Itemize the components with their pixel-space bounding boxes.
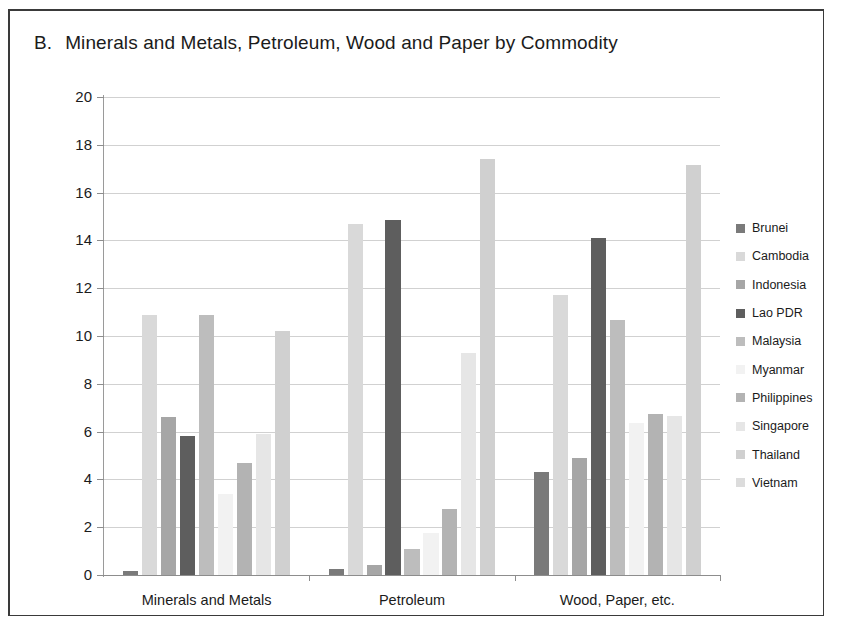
x-axis-tick <box>720 575 721 581</box>
y-axis-tick-label: 10 <box>52 327 92 344</box>
legend-item-vietnam[interactable]: Vietnam <box>736 469 836 497</box>
legend-swatch-icon <box>736 365 745 374</box>
bar-cambodia-2 <box>348 224 363 575</box>
chart-legend: BruneiCambodiaIndonesiaLao PDRMalaysiaMy… <box>736 214 836 497</box>
legend-item-thailand[interactable]: Thailand <box>736 440 836 468</box>
y-axis-tick <box>97 384 104 385</box>
gridline <box>104 336 720 337</box>
y-axis-tick-label: 18 <box>52 136 92 153</box>
y-axis-tick <box>97 432 104 433</box>
y-axis-tick <box>97 527 104 528</box>
y-axis-tick <box>97 479 104 480</box>
bar-philippines-3 <box>648 414 663 575</box>
bar-brunei-3 <box>534 472 549 575</box>
legend-swatch-icon <box>736 478 745 487</box>
figure-panel: B.Minerals and Metals, Petroleum, Wood a… <box>0 0 844 640</box>
y-axis-tick-label: 16 <box>52 184 92 201</box>
bar-lao-pdr-1 <box>180 436 195 575</box>
gridline <box>104 145 720 146</box>
gridline <box>104 384 720 385</box>
legend-swatch-icon <box>736 450 745 459</box>
gridline <box>104 240 720 241</box>
bar-thailand-1 <box>275 331 290 575</box>
legend-item-malaysia[interactable]: Malaysia <box>736 327 836 355</box>
bar-malaysia-3 <box>610 320 625 575</box>
gridline <box>104 288 720 289</box>
bar-brunei-2 <box>329 569 344 575</box>
bar-malaysia-2 <box>404 549 419 575</box>
bar-myanmar-1 <box>218 494 233 575</box>
bar-cambodia-1 <box>142 315 157 576</box>
legend-item-cambodia[interactable]: Cambodia <box>736 242 836 270</box>
bar-indonesia-2 <box>367 565 382 575</box>
title-text: Minerals and Metals, Petroleum, Wood and… <box>65 32 618 54</box>
legend-label: Philippines <box>752 391 812 405</box>
page-title: B.Minerals and Metals, Petroleum, Wood a… <box>34 32 618 54</box>
legend-swatch-icon <box>736 393 745 402</box>
legend-swatch-icon <box>736 224 745 233</box>
legend-label: Vietnam <box>752 476 798 490</box>
bar-thailand-3 <box>686 165 701 575</box>
bar-malaysia-1 <box>199 315 214 576</box>
y-axis-labels: 02468101214161820 <box>42 97 92 575</box>
bar-cambodia-3 <box>553 295 568 575</box>
legend-item-indonesia[interactable]: Indonesia <box>736 271 836 299</box>
legend-label: Malaysia <box>752 334 801 348</box>
gridline <box>104 97 720 98</box>
legend-label: Cambodia <box>752 249 809 263</box>
legend-label: Thailand <box>752 448 800 462</box>
x-axis-category-label: Petroleum <box>309 592 514 608</box>
bar-brunei-1 <box>123 571 138 575</box>
legend-item-singapore[interactable]: Singapore <box>736 412 836 440</box>
bar-myanmar-2 <box>423 533 438 575</box>
y-axis-tick-label: 6 <box>52 423 92 440</box>
x-axis-category-label: Wood, Paper, etc. <box>515 592 720 608</box>
y-axis-tick-label: 14 <box>52 231 92 248</box>
legend-item-brunei[interactable]: Brunei <box>736 214 836 242</box>
legend-item-myanmar[interactable]: Myanmar <box>736 355 836 383</box>
bar-philippines-2 <box>442 509 457 575</box>
y-axis-tick <box>97 145 104 146</box>
gridline <box>104 432 720 433</box>
y-axis-tick <box>97 336 104 337</box>
y-axis-tick-label: 0 <box>52 566 92 583</box>
y-axis-tick <box>97 288 104 289</box>
y-axis-tick-label: 2 <box>52 518 92 535</box>
x-axis-category-label: Minerals and Metals <box>104 592 309 608</box>
bar-indonesia-1 <box>161 417 176 575</box>
legend-label: Brunei <box>752 221 788 235</box>
legend-swatch-icon <box>736 422 745 431</box>
y-axis-tick-label: 8 <box>52 375 92 392</box>
y-axis-tick <box>97 575 104 576</box>
bar-thailand-2 <box>480 159 495 575</box>
bar-lao-pdr-2 <box>385 220 400 575</box>
panel-letter: B. <box>34 32 52 54</box>
legend-label: Myanmar <box>752 363 804 377</box>
y-axis-tick-label: 12 <box>52 279 92 296</box>
bar-lao-pdr-3 <box>591 238 606 575</box>
legend-label: Singapore <box>752 419 809 433</box>
gridline <box>104 575 720 576</box>
bar-indonesia-3 <box>572 458 587 575</box>
legend-swatch-icon <box>736 309 745 318</box>
bar-singapore-2 <box>461 353 476 575</box>
legend-item-lao-pdr[interactable]: Lao PDR <box>736 299 836 327</box>
bar-philippines-1 <box>237 463 252 575</box>
x-axis-tick <box>309 575 310 581</box>
bar-myanmar-3 <box>629 423 644 575</box>
bar-singapore-3 <box>667 416 682 575</box>
bar-singapore-1 <box>256 434 271 575</box>
gridline <box>104 527 720 528</box>
plot-area <box>104 97 720 575</box>
y-axis-tick <box>97 97 104 98</box>
legend-swatch-icon <box>736 280 745 289</box>
legend-item-philippines[interactable]: Philippines <box>736 384 836 412</box>
y-axis-tick-label: 20 <box>52 88 92 105</box>
x-axis-tick <box>515 575 516 581</box>
legend-label: Indonesia <box>752 278 806 292</box>
y-axis-tick <box>97 193 104 194</box>
gridline <box>104 479 720 480</box>
legend-swatch-icon <box>736 337 745 346</box>
legend-label: Lao PDR <box>752 306 803 320</box>
y-axis-tick <box>97 240 104 241</box>
